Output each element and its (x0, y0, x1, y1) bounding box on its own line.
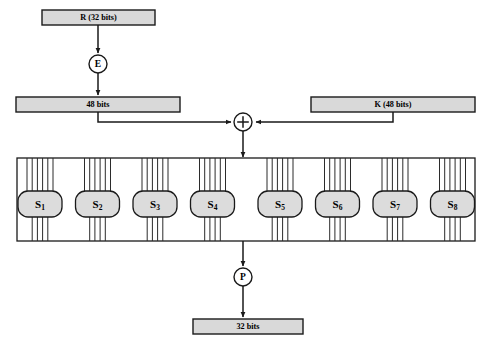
sbox-index: 5 (281, 202, 285, 211)
des-f-function-diagram: S1S2S3S4S5S6S7S8 R (32 bits) 48 bits K (… (0, 0, 491, 356)
sbox-index: 2 (99, 202, 103, 211)
node-expansion-e[interactable]: E (89, 55, 107, 73)
edge-expanded-to-xor (98, 112, 231, 122)
sbox-7[interactable]: S7 (373, 191, 417, 217)
node-input-r[interactable]: R (32 bits) (42, 10, 155, 25)
sbox-1[interactable]: S1 (18, 191, 62, 217)
sbox-index: 7 (396, 202, 400, 211)
node-permutation-p[interactable]: P (234, 268, 252, 286)
sbox-5[interactable]: S5 (258, 191, 302, 217)
edge-subkey-to-xor (256, 112, 393, 122)
sbox-index: 4 (214, 202, 218, 211)
output-label: 32 bits (237, 322, 260, 331)
expansion-label: E (95, 59, 101, 69)
node-xor[interactable] (234, 113, 252, 131)
sbox-group: S1S2S3S4S5S6S7S8 (17, 158, 475, 241)
node-subkey-k[interactable]: K (48 bits) (311, 97, 475, 112)
sbox-8[interactable]: S8 (431, 191, 475, 217)
node-output-32bits[interactable]: 32 bits (193, 319, 303, 334)
sbox-index: 6 (339, 202, 343, 211)
sbox-index: 8 (454, 202, 458, 211)
sbox-index: 1 (41, 202, 45, 211)
sbox-4[interactable]: S4 (191, 191, 235, 217)
sbox-6[interactable]: S6 (316, 191, 360, 217)
sbox-index: 3 (156, 202, 160, 211)
sbox-2[interactable]: S2 (76, 191, 120, 217)
sbox-3[interactable]: S3 (133, 191, 177, 217)
subkey-label: K (48 bits) (375, 100, 412, 109)
sbox-shapes: S1S2S3S4S5S6S7S8 (18, 191, 475, 217)
diagram-canvas: S1S2S3S4S5S6S7S8 R (32 bits) 48 bits K (… (0, 0, 491, 356)
node-expanded-48bits[interactable]: 48 bits (16, 97, 180, 112)
expanded-label: 48 bits (87, 100, 110, 109)
permutation-label: P (240, 272, 246, 282)
input-r-label: R (32 bits) (80, 13, 117, 22)
